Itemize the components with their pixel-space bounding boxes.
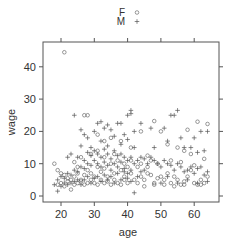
point-plus-icon (105, 144, 110, 149)
point-plus-icon (115, 171, 120, 176)
point-plus-icon (89, 181, 94, 186)
point-plus-icon (119, 142, 124, 147)
point-plus-icon (92, 129, 97, 134)
point-plus-icon (95, 152, 100, 157)
x-tick-label: 40 (121, 208, 133, 220)
point-circle-icon (96, 183, 100, 187)
point-plus-icon (192, 171, 197, 176)
point-plus-icon (152, 158, 157, 163)
point-plus-icon (165, 139, 170, 144)
point-circle-icon (152, 119, 156, 123)
point-plus-icon (195, 150, 200, 155)
y-axis: 010203040 (24, 61, 223, 202)
point-plus-icon (72, 113, 77, 118)
point-plus-icon (112, 161, 117, 166)
point-circle-icon (202, 181, 206, 185)
legend-plus-icon (135, 19, 140, 24)
point-plus-icon (55, 189, 60, 194)
point-circle-icon (162, 178, 166, 182)
point-circle-icon (122, 162, 126, 166)
point-circle-icon (139, 130, 143, 134)
point-circle-icon (69, 188, 73, 192)
point-plus-icon (99, 139, 104, 144)
y-tick-label: 20 (24, 125, 36, 137)
point-circle-icon (136, 165, 140, 169)
point-circle-icon (169, 181, 173, 185)
point-plus-icon (182, 145, 187, 150)
point-plus-icon (135, 174, 140, 179)
y-tick-label: 0 (30, 190, 36, 202)
scatter-chart: FM 2030405060 010203040 age wage (0, 0, 234, 249)
point-plus-icon (102, 126, 107, 131)
point-plus-icon (65, 155, 70, 160)
point-circle-icon (206, 175, 210, 179)
point-circle-icon (146, 172, 150, 176)
point-circle-icon (192, 164, 196, 168)
point-plus-icon (75, 155, 80, 160)
point-circle-icon (196, 120, 200, 124)
point-circle-icon (119, 183, 123, 187)
point-circle-icon (146, 154, 150, 158)
point-circle-icon (126, 165, 130, 169)
point-plus-icon (92, 148, 97, 153)
point-plus-icon (172, 113, 177, 118)
point-circle-icon (86, 168, 90, 172)
point-circle-icon (89, 172, 93, 176)
point-plus-icon (139, 121, 144, 126)
point-circle-icon (149, 173, 153, 177)
point-circle-icon (202, 157, 206, 161)
point-plus-icon (125, 158, 130, 163)
point-plus-icon (112, 148, 117, 153)
point-circle-icon (159, 130, 163, 134)
data-points (52, 50, 210, 195)
point-circle-icon (73, 175, 77, 179)
point-plus-icon (92, 158, 97, 163)
point-circle-icon (156, 176, 160, 180)
point-circle-icon (53, 162, 57, 166)
point-plus-icon (52, 182, 57, 187)
point-plus-icon (132, 129, 137, 134)
x-tick-label: 20 (55, 208, 67, 220)
x-tick-label: 60 (188, 208, 200, 220)
point-plus-icon (89, 145, 94, 150)
point-circle-icon (172, 175, 176, 179)
point-plus-icon (155, 161, 160, 166)
y-axis-title: wage (5, 109, 17, 136)
point-plus-icon (172, 168, 177, 173)
point-plus-icon (79, 144, 84, 149)
x-axis: 2030405060 (55, 38, 200, 220)
point-plus-icon (122, 155, 127, 160)
point-circle-icon (119, 168, 123, 172)
point-circle-icon (169, 159, 173, 163)
point-plus-icon (82, 158, 87, 163)
point-plus-icon (55, 178, 60, 183)
point-circle-icon (162, 183, 166, 187)
point-circle-icon (159, 175, 163, 179)
point-plus-icon (179, 136, 184, 141)
point-plus-icon (152, 145, 157, 150)
point-circle-icon (116, 159, 120, 163)
point-plus-icon (165, 174, 170, 179)
point-plus-icon (95, 161, 100, 166)
point-plus-icon (162, 126, 167, 131)
point-plus-icon (105, 123, 110, 128)
point-circle-icon (132, 178, 136, 182)
point-circle-icon (63, 50, 67, 54)
point-circle-icon (109, 183, 113, 187)
point-circle-icon (96, 133, 100, 137)
point-plus-icon (109, 168, 114, 173)
point-plus-icon (149, 126, 154, 131)
point-plus-icon (85, 136, 90, 141)
x-axis-title: age (119, 226, 137, 238)
point-plus-icon (129, 108, 134, 113)
point-circle-icon (142, 185, 146, 189)
y-tick-label: 10 (24, 158, 36, 170)
point-plus-icon (105, 152, 110, 157)
point-circle-icon (73, 160, 77, 164)
point-plus-icon (82, 132, 87, 137)
point-plus-icon (119, 121, 124, 126)
point-circle-icon (176, 146, 180, 150)
point-plus-icon (159, 165, 164, 170)
point-plus-icon (79, 127, 84, 132)
y-tick-label: 40 (24, 61, 36, 73)
